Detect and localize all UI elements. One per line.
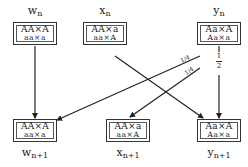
edge-y-n-to-x-n1: [130, 68, 200, 117]
edges-layer: [0, 0, 248, 167]
edge-label-half: 1 2: [214, 53, 224, 70]
